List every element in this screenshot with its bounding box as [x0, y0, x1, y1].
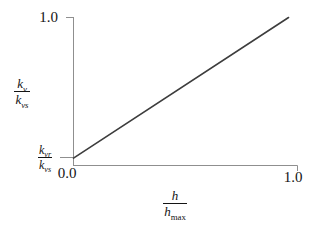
x-axis-den-sub: max	[171, 212, 186, 222]
y-intercept-label-numerator: kvr	[38, 144, 52, 157]
y-axis-label-denominator: kvs	[14, 91, 29, 106]
y-intercept-label-denominator: kvs	[38, 157, 52, 171]
x-axis-label-numerator: h	[171, 189, 180, 203]
y-axis-label-numerator: kv	[16, 77, 28, 91]
y-axis-den-sub: vs	[21, 100, 28, 110]
x-axis-label-denominator: hmax	[163, 203, 187, 218]
chart-figure: 1.0 kv kvs kvr kvs 0.0 1.0 h hmax	[0, 0, 309, 229]
x-axis-label: h hmax	[157, 189, 193, 218]
x-axis-tick-label-max: 1.0	[279, 170, 307, 185]
y-intercept-den-sub: vs	[44, 165, 51, 174]
y-axis-label: kv kvs	[4, 77, 40, 106]
x-axis-tick-label-min: 0.0	[53, 166, 81, 181]
data-line	[74, 18, 289, 159]
plot-canvas	[0, 0, 309, 229]
x-axis-num-base: h	[172, 188, 179, 203]
y-axis-tick-label-max: 1.0	[18, 10, 58, 25]
